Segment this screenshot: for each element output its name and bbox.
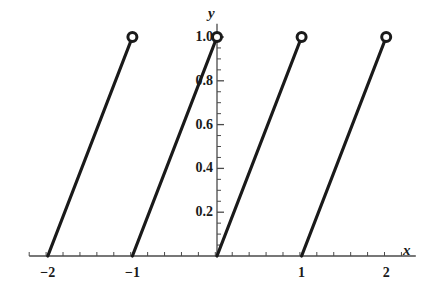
data-line-segment [302,37,387,256]
data-line-segment [217,37,302,256]
open-circle-marker [128,33,137,42]
y-tick-label: 0.6 [196,118,214,132]
open-circle-markers-group [128,33,391,42]
x-tick-label: 1 [298,266,305,280]
plot-canvas [0,0,426,282]
y-axis-ticks [217,37,224,245]
open-circle-marker [297,33,306,42]
data-line-segment [132,37,217,256]
y-tick-label: 1.0 [196,30,214,44]
y-tick-label: 0.2 [196,205,214,219]
x-tick-label: −2 [40,266,55,280]
y-tick-label: 0.4 [196,161,214,175]
open-circle-marker [382,33,391,42]
axes-group [29,24,416,256]
chart-figure: −2−112 0.20.40.60.81.0 y x [0,0,426,282]
x-tick-label: −1 [125,266,140,280]
data-line-segment [48,37,133,256]
x-axis-label: x [403,243,411,258]
x-tick-label: 2 [383,266,390,280]
y-axis-label: y [208,6,215,21]
open-circle-marker [213,33,222,42]
y-tick-label: 0.8 [196,74,214,88]
